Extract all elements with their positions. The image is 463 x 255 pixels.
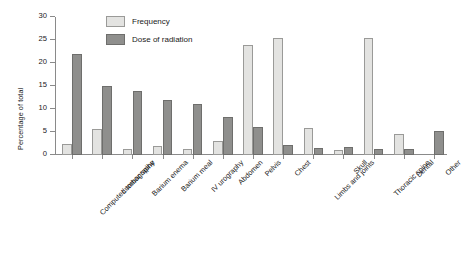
bar-dose-of-radiation <box>374 149 384 155</box>
bar-dose-of-radiation <box>72 54 82 155</box>
bar-dose-of-radiation <box>404 149 414 155</box>
y-tick: 5 <box>50 131 55 132</box>
y-tick: 0 <box>50 154 55 155</box>
legend-swatch-frequency <box>106 16 125 27</box>
bar-dose-of-radiation <box>314 148 324 155</box>
bar-frequency <box>334 150 344 155</box>
bar-frequency <box>183 149 193 155</box>
bar-frequency <box>304 128 314 155</box>
bar-dose-of-radiation <box>102 86 112 155</box>
bar-chart: Percentage of total 051015202530 Frequen… <box>0 0 463 255</box>
legend-label-dose-of-radiation: Dose of radiation <box>132 35 192 44</box>
x-axis-labels: Computed tomographyLumbar spineBarium en… <box>55 158 447 253</box>
y-tick-label: 0 <box>43 149 47 158</box>
bar-dose-of-radiation <box>133 91 143 155</box>
bar-frequency <box>92 129 102 155</box>
bar-frequency <box>394 134 404 155</box>
y-tick: 15 <box>50 85 55 86</box>
bar-dose-of-radiation <box>434 131 444 155</box>
bar-dose-of-radiation <box>163 100 173 155</box>
y-tick: 10 <box>50 108 55 109</box>
y-tick-label: 20 <box>39 57 47 66</box>
y-axis-line <box>55 17 56 155</box>
y-tick-label: 30 <box>39 11 47 20</box>
bar-dose-of-radiation <box>223 117 233 155</box>
x-tick-label: Pelvis <box>263 158 283 178</box>
bar-frequency <box>62 144 72 156</box>
y-tick: 20 <box>50 62 55 63</box>
y-tick: 30 <box>50 16 55 17</box>
chart-legend: Frequency Dose of radiation <box>106 14 192 50</box>
bar-frequency <box>243 45 253 155</box>
legend-item-frequency: Frequency <box>106 14 192 29</box>
bar-frequency <box>213 141 223 155</box>
y-tick-label: 15 <box>39 80 47 89</box>
legend-label-frequency: Frequency <box>132 17 170 26</box>
bar-frequency <box>273 38 283 155</box>
y-tick-label: 10 <box>39 103 47 112</box>
x-tick-label: Other <box>443 158 462 177</box>
bar-frequency <box>123 149 133 155</box>
bar-frequency <box>364 38 374 155</box>
legend-swatch-dose-of-radiation <box>106 34 125 45</box>
x-tick-label: Chest <box>293 158 313 178</box>
bar-dose-of-radiation <box>283 145 293 155</box>
legend-item-dose-of-radiation: Dose of radiation <box>106 32 192 47</box>
y-tick-label: 25 <box>39 34 47 43</box>
bar-dose-of-radiation <box>193 104 203 155</box>
bar-dose-of-radiation <box>253 127 263 155</box>
bar-dose-of-radiation <box>344 147 354 155</box>
x-tick-label: Dental <box>414 158 435 179</box>
y-tick: 25 <box>50 39 55 40</box>
bar-frequency <box>153 146 163 155</box>
y-tick-label: 5 <box>43 126 47 135</box>
